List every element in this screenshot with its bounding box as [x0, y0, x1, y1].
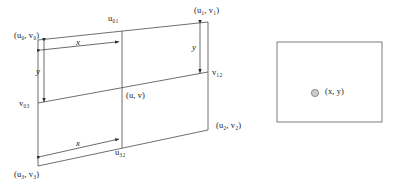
quadrilateral-outline [38, 22, 208, 166]
label-edge-left: v₀₃ [19, 99, 29, 108]
label-corner-top-right: (u₁, v₁) [194, 6, 219, 15]
label-dim-y-left: y [36, 67, 40, 76]
figure-canvas: (u₀, v₀) (u₁, v₁) (u₂, v₂) (u₃, v₃) u₀₁ … [0, 0, 406, 189]
sample-point-marker [311, 89, 318, 96]
label-edge-top: u₀₁ [108, 14, 118, 23]
rect-boundary [277, 42, 382, 122]
diagram-svg [0, 0, 406, 189]
label-corner-top-left: (u₀, v₀) [14, 31, 39, 40]
label-edge-bottom: u₃₂ [115, 148, 125, 157]
label-rect-point: (x, y) [325, 87, 344, 96]
label-dim-y-right: y [192, 43, 196, 52]
label-interior-point: (u, v) [126, 91, 145, 100]
destination-rectangle [277, 42, 382, 122]
label-corner-bottom-right: (u₂, v₂) [216, 121, 241, 130]
label-dim-x-top: x [76, 38, 80, 47]
quad-horizontal-divider [38, 72, 208, 103]
label-edge-right: v₁₂ [212, 68, 222, 77]
label-dim-x-bottom: x [76, 139, 80, 148]
label-corner-bottom-left: (u₃, v₃) [14, 170, 39, 179]
quad-boundary [38, 22, 208, 166]
